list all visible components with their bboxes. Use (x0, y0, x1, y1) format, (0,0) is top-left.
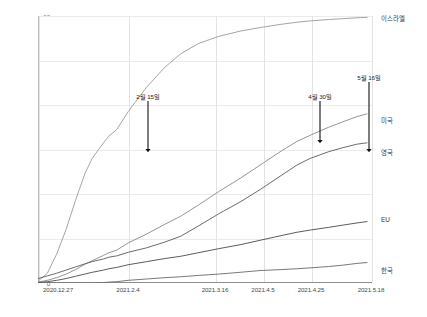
annotation-label-may16: 5월 16일 (357, 73, 380, 82)
series-line-israel (38, 17, 367, 281)
series-lines (38, 16, 372, 283)
chart-figure: 60 50 40 30 20 10 0 이스라엘 미국 영국 EU 한국 2월 … (0, 0, 427, 317)
series-line-eu (38, 222, 367, 283)
x-tick-label: 2021.5.18 (358, 286, 385, 293)
x-tick-label: 2020.12.27 (43, 286, 73, 293)
x-tick-label: 2021.4.25 (298, 286, 325, 293)
annotation-label-apr30: 4월 30일 (308, 92, 331, 101)
x-tick-label: 2021.3.16 (202, 286, 229, 293)
series-line-korea (38, 263, 367, 283)
series-label-korea: 한국 (381, 266, 393, 275)
series-label-eu: EU (381, 216, 390, 223)
series-line-uk (38, 143, 367, 279)
gridline-vertical (372, 16, 373, 282)
series-line-usa (38, 114, 367, 282)
series-label-israel: 이스라엘 (381, 14, 405, 23)
x-tick-label: 2021.2.4 (116, 286, 139, 293)
series-label-uk: 영국 (381, 148, 393, 157)
annotation-label-feb15: 2월 15일 (136, 92, 159, 101)
series-label-usa: 미국 (381, 116, 393, 125)
x-tick-label: 2021.4.5 (251, 286, 274, 293)
